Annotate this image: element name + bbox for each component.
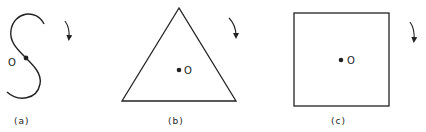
center-label: O: [184, 65, 192, 76]
center-point-o: [339, 58, 344, 63]
rotational-symmetry-diagram: O (a) O (b) O (c): [0, 0, 426, 132]
clockwise-arrow-icon: [65, 21, 69, 38]
triangle: [122, 8, 236, 101]
caption-b: (b): [168, 116, 184, 126]
caption-a: (a): [14, 116, 30, 126]
figure-c: O (c): [294, 13, 414, 126]
center-label: O: [8, 57, 16, 68]
caption-c: (c): [331, 116, 346, 126]
clockwise-arrow-icon: [229, 18, 236, 36]
center-point-o: [24, 56, 29, 61]
figure-b: O (b): [122, 8, 236, 126]
center-point-o: [177, 68, 182, 73]
center-label: O: [347, 55, 355, 66]
clockwise-arrow-icon: [410, 22, 414, 40]
figure-a: O (a): [7, 14, 69, 126]
